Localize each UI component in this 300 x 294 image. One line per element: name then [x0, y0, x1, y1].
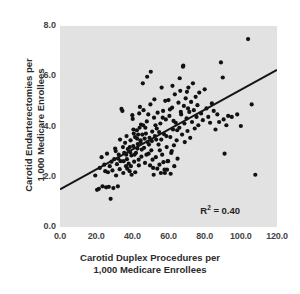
data-point: [192, 108, 196, 112]
data-point: [178, 89, 182, 93]
data-point: [186, 85, 190, 89]
data-point: [203, 87, 207, 91]
data-point: [141, 108, 145, 112]
data-point: [158, 148, 162, 152]
data-point: [141, 81, 145, 85]
data-point: [169, 172, 173, 176]
data-point: [171, 119, 175, 123]
data-point: [183, 140, 187, 144]
data-point: [172, 164, 176, 168]
data-point: [108, 164, 112, 168]
data-point: [162, 168, 166, 172]
data-point: [157, 163, 161, 167]
x-axis-tick-label: 0.0: [54, 231, 66, 241]
data-point: [115, 162, 119, 166]
data-point: [130, 113, 134, 117]
data-point: [136, 132, 140, 136]
data-point: [143, 126, 147, 130]
data-point: [156, 111, 160, 115]
data-point: [176, 101, 180, 105]
data-point: [121, 171, 125, 175]
data-point: [173, 92, 177, 96]
x-axis-tick-label: 40.0: [124, 231, 141, 241]
data-point: [116, 184, 120, 188]
data-point: [165, 145, 169, 149]
data-point: [114, 173, 118, 177]
data-point: [161, 109, 165, 113]
data-point: [155, 167, 159, 171]
data-point: [185, 90, 189, 94]
data-point: [222, 117, 226, 121]
data-point: [194, 95, 198, 99]
data-point: [170, 149, 174, 153]
r2-suffix: = 0.40: [211, 206, 240, 217]
data-point: [144, 131, 148, 135]
data-point: [158, 121, 162, 125]
data-point: [195, 103, 199, 107]
data-point: [143, 161, 147, 165]
y-axis-tick-label: 4.0: [0, 121, 56, 131]
data-point: [215, 112, 219, 116]
data-point: [145, 119, 149, 123]
data-point: [111, 186, 115, 190]
data-point: [131, 117, 135, 121]
data-point: [137, 111, 141, 115]
data-point: [100, 184, 104, 188]
data-point: [97, 187, 101, 191]
data-point: [128, 138, 132, 142]
data-point: [182, 104, 186, 108]
data-point: [163, 99, 167, 103]
data-point: [188, 136, 192, 140]
data-point: [226, 114, 230, 118]
data-point: [179, 110, 183, 114]
data-point: [164, 134, 168, 138]
data-point: [107, 185, 111, 189]
data-point: [93, 173, 97, 177]
data-point: [221, 75, 225, 79]
data-point: [230, 115, 234, 119]
data-point: [133, 170, 137, 174]
data-point: [114, 149, 118, 153]
data-point: [181, 64, 185, 68]
data-point: [246, 37, 250, 41]
data-point: [143, 136, 147, 140]
data-point: [149, 70, 153, 74]
data-point: [122, 159, 126, 163]
data-point: [224, 123, 228, 127]
data-point: [159, 171, 163, 175]
data-point: [212, 109, 216, 113]
data-point: [253, 173, 257, 177]
plot-area: R2 = 0.40: [60, 26, 277, 227]
data-point: [128, 145, 132, 149]
data-point: [146, 112, 150, 116]
data-point: [139, 122, 143, 126]
data-point: [190, 120, 194, 124]
x-axis-tick-label: 20.0: [88, 231, 105, 241]
data-point: [148, 163, 152, 167]
data-point: [147, 142, 151, 146]
data-point: [159, 137, 163, 141]
y-axis-tick-label: 2.0: [0, 171, 56, 181]
data-point: [121, 145, 125, 149]
data-point: [175, 138, 179, 142]
x-axis-tick-label: 80.0: [196, 231, 213, 241]
data-point: [135, 136, 139, 140]
data-point: [152, 116, 156, 120]
data-point: [124, 134, 128, 138]
data-point: [139, 155, 143, 159]
scatter-chart: Carotid Endarterectomies per 1,000 Medic…: [0, 0, 300, 294]
data-point: [110, 168, 114, 172]
data-point: [106, 170, 110, 174]
data-point: [140, 132, 144, 136]
data-point: [178, 76, 182, 80]
data-point: [109, 197, 113, 201]
data-point: [105, 152, 109, 156]
data-point: [206, 115, 210, 119]
data-point: [131, 127, 135, 131]
x-axis-tick-label: 60.0: [160, 231, 177, 241]
data-point: [156, 142, 160, 146]
x-axis-title: Carotid Duplex Procedures per 1,000 Medi…: [0, 252, 300, 276]
data-point: [217, 120, 221, 124]
data-point: [99, 155, 103, 159]
data-point: [145, 75, 149, 79]
